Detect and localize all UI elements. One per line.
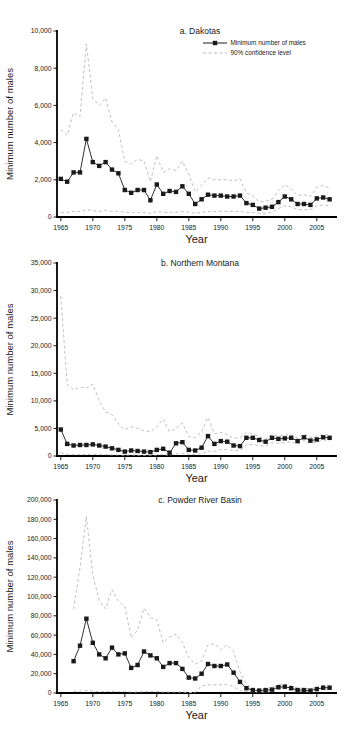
x-tick-label: 1965 [53,463,68,470]
series-marker [71,659,75,663]
y-tick-label: 60,000 [31,632,52,639]
series-marker [193,448,197,452]
y-tick-label: 160,000 [27,535,52,542]
x-tick-label: 1995 [245,224,260,231]
series-marker [180,440,184,444]
series-marker [84,617,88,621]
series-marker [244,436,248,440]
y-tick-label: 100,000 [27,593,52,600]
series-marker [187,192,191,196]
y-tick-label: 0 [48,213,52,220]
y-tick-label: 0 [48,689,52,696]
series-marker [180,667,184,671]
series-marker [276,437,280,441]
series-marker [212,442,216,446]
series-marker [321,195,325,199]
series-marker [123,651,127,655]
series-marker [135,663,139,667]
series-marker [257,206,261,210]
x-tick-label: 1990 [213,463,228,470]
series-marker [257,688,261,692]
series-marker [193,676,197,680]
series-marker [148,198,152,202]
x-tick-label: 1985 [181,463,196,470]
series-marker [263,206,267,210]
series-marker [276,200,280,204]
series-marker [238,193,242,197]
series-marker [302,688,306,692]
series-marker [327,686,331,690]
y-tick-label: 5,000 [34,425,51,432]
series-marker [219,193,223,197]
series-marker [187,448,191,452]
series-marker [315,437,319,441]
x-tick-label: 1965 [53,224,68,231]
x-tick-label: 1970 [85,463,100,470]
series-marker [270,436,274,440]
series-marker [167,451,171,455]
series-marker [97,443,101,447]
panel-title: c. Powder River Basin [158,495,242,505]
series-marker [97,164,101,168]
x-tick-label: 1975 [117,463,132,470]
series-marker [302,435,306,439]
series-marker [238,680,242,684]
y-tick-label: 200,000 [27,496,52,503]
series-marker [283,194,287,198]
y-tick-label: 2,000 [34,176,51,183]
series-marker [231,194,235,198]
series-marker [225,440,229,444]
x-tick-label: 2005 [309,224,324,231]
series-marker [65,180,69,184]
series-marker [199,197,203,201]
confidence-line [61,296,330,439]
y-tick-label: 10,000 [31,27,52,34]
series-marker [206,434,210,438]
series-marker [155,448,159,452]
y-tick-label: 20,000 [31,670,52,677]
x-tick-label: 1985 [181,700,196,707]
series-marker [78,644,82,648]
series-marker [283,685,287,689]
x-tick-label: 1995 [245,700,260,707]
y-tick-label: 30,000 [31,287,52,294]
x-tick-label: 1990 [213,700,228,707]
panel-c: 020,00040,00060,00080,000100,000120,0001… [4,495,337,722]
series-marker [315,196,319,200]
y-axis-label: Minimum number of males [4,540,15,652]
series-marker [174,190,178,194]
series-marker [289,686,293,690]
series-marker [148,653,152,657]
legend: Minimum number of males90% confidence le… [203,39,306,56]
series-marker [187,675,191,679]
x-tick-label: 2000 [277,224,292,231]
series-marker [295,688,299,692]
series-marker [167,661,171,665]
series-marker [59,177,63,181]
series-marker [308,688,312,692]
series-marker [244,201,248,205]
series-marker [238,444,242,448]
y-tick-label: 10,000 [31,397,52,404]
y-tick-label: 4,000 [34,139,51,146]
series-marker [129,448,133,452]
series-marker [161,665,165,669]
x-tick-label: 1980 [149,224,164,231]
y-tick-label: 180,000 [27,516,52,523]
series-marker [270,205,274,209]
panel-title: a. Dakotas [180,26,221,36]
series-marker [251,688,255,692]
series-marker [103,444,107,448]
series-marker [59,427,63,431]
x-axis-label: Year [185,233,208,245]
x-tick-label: 1980 [149,700,164,707]
series-marker [289,197,293,201]
series-marker [212,664,216,668]
series-marker [65,442,69,446]
x-tick-label: 1970 [85,700,100,707]
x-axis-label: Year [185,472,208,484]
series-marker [110,645,114,649]
series-marker [116,652,120,656]
panel-title: b. Northern Montana [161,258,239,268]
series-marker [155,656,159,660]
